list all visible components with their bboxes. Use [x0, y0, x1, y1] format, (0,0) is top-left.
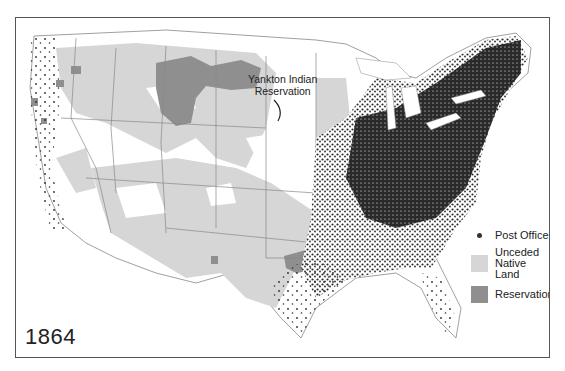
legend-item-reservation: Reservation [471, 286, 549, 303]
legend-label: Post Office [495, 230, 549, 241]
map-legend: Post Office Unceded Native Land Reservat… [471, 230, 549, 309]
yankton-reservation-annotation: Yankton Indian Reservation [248, 73, 317, 97]
unceded-land-swatch-icon [471, 255, 488, 272]
legend-item-post-office: Post Office [471, 230, 549, 241]
annotation-line-2: Reservation [248, 85, 317, 97]
annotation-line-1: Yankton Indian [248, 73, 317, 85]
post-office-dot-icon [477, 233, 482, 238]
us-map [16, 18, 549, 357]
reservation-swatch-icon [471, 286, 488, 303]
legend-label-line-2: Native Land [495, 257, 526, 280]
legend-label: Reservation [495, 289, 550, 300]
legend-item-unceded-land: Unceded Native Land [471, 247, 549, 280]
legend-label: Unceded Native Land [495, 247, 549, 280]
year-label: 1864 [25, 324, 76, 350]
map-frame: Yankton Indian Reservation Post Office U… [15, 17, 550, 358]
